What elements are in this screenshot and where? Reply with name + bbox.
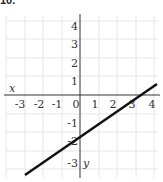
x-axis-label: x [9, 82, 16, 95]
svg-text:4: 4 [149, 98, 156, 111]
svg-text:-3: -3 [67, 157, 78, 170]
svg-text:4: 4 [71, 20, 78, 33]
svg-text:-1: -1 [67, 117, 78, 130]
svg-text:1: 1 [92, 98, 99, 111]
svg-text:0: 0 [73, 98, 80, 111]
svg-text:1: 1 [71, 75, 78, 88]
grid [6, 16, 158, 178]
coordinate-plane: x y -3 -2 -1 0 1 2 3 4 4 3 2 1 -1 -2 -3 [0, 0, 163, 182]
svg-text:2: 2 [71, 57, 78, 70]
svg-text:-2: -2 [34, 98, 45, 111]
svg-text:2: 2 [110, 98, 117, 111]
svg-text:-3: -3 [15, 98, 26, 111]
y-axis-label: y [82, 157, 90, 170]
svg-text:-1: -1 [52, 98, 63, 111]
svg-text:3: 3 [71, 38, 78, 51]
